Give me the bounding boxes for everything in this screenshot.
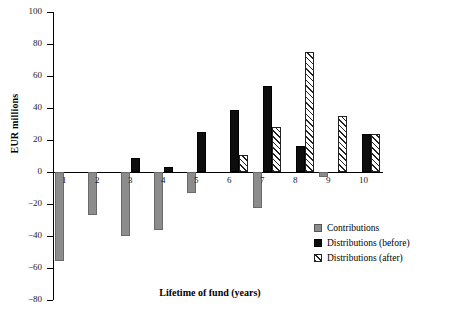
bar xyxy=(164,167,173,172)
y-tick-mark xyxy=(47,44,53,45)
x-tick-label: 1 xyxy=(62,175,67,185)
legend-item-contributions: Contributions xyxy=(314,222,410,234)
legend-label-distributions-after: Distributions (after) xyxy=(327,253,403,263)
bar-chart: EUR millions 100806040200−20−40−60−80 12… xyxy=(0,0,451,315)
y-axis-label: EUR millions xyxy=(9,64,20,184)
x-axis-label: Lifetime of fund (years) xyxy=(60,287,360,298)
y-tick-label: −80 xyxy=(0,295,42,304)
y-tick-label: −40 xyxy=(0,231,42,240)
x-tick-label: 3 xyxy=(128,175,133,185)
y-tick-mark xyxy=(47,204,53,205)
bar xyxy=(263,86,272,172)
legend-swatch-distributions-before-icon xyxy=(314,239,322,247)
legend-swatch-contributions-icon xyxy=(314,224,322,232)
x-tick-label: 8 xyxy=(293,175,298,185)
legend-label-contributions: Contributions xyxy=(327,223,379,233)
x-tick-label: 6 xyxy=(227,175,232,185)
y-tick-mark xyxy=(47,76,53,77)
x-tick-label: 9 xyxy=(326,175,331,185)
x-axis-line xyxy=(53,172,383,173)
legend-item-distributions-before: Distributions (before) xyxy=(314,237,410,249)
bar xyxy=(296,146,305,172)
y-tick-mark xyxy=(47,172,53,173)
y-tick-label: 0 xyxy=(0,167,42,176)
bar xyxy=(55,172,64,261)
y-axis-line xyxy=(53,12,54,300)
x-tick-label: 2 xyxy=(95,175,100,185)
y-tick-label: −20 xyxy=(0,199,42,208)
y-tick-label: 20 xyxy=(0,135,42,144)
bar xyxy=(362,134,371,172)
y-tick-mark xyxy=(47,108,53,109)
bar xyxy=(371,134,380,172)
y-tick-label: 100 xyxy=(0,7,42,16)
bar xyxy=(272,127,281,172)
legend-swatch-distributions-after-icon xyxy=(314,254,322,262)
bar xyxy=(197,132,206,172)
bar xyxy=(305,52,314,172)
y-tick-label: 80 xyxy=(0,39,42,48)
y-tick-label: −60 xyxy=(0,263,42,272)
bar xyxy=(338,116,347,172)
bar xyxy=(131,158,140,172)
x-tick-label: 7 xyxy=(260,175,265,185)
bar xyxy=(230,110,239,172)
x-tick-label: 4 xyxy=(161,175,166,185)
y-tick-label: 40 xyxy=(0,103,42,112)
legend-item-distributions-after: Distributions (after) xyxy=(314,252,410,264)
y-tick-mark xyxy=(47,236,53,237)
legend: Contributions Distributions (before) Dis… xyxy=(314,222,410,267)
y-tick-label: 60 xyxy=(0,71,42,80)
legend-label-distributions-before: Distributions (before) xyxy=(327,238,410,248)
y-tick-mark xyxy=(47,300,53,301)
bar xyxy=(239,155,248,172)
x-tick-label: 10 xyxy=(359,175,368,185)
y-tick-mark xyxy=(47,140,53,141)
y-tick-mark xyxy=(47,12,53,13)
y-tick-mark xyxy=(47,268,53,269)
x-tick-label: 5 xyxy=(194,175,199,185)
